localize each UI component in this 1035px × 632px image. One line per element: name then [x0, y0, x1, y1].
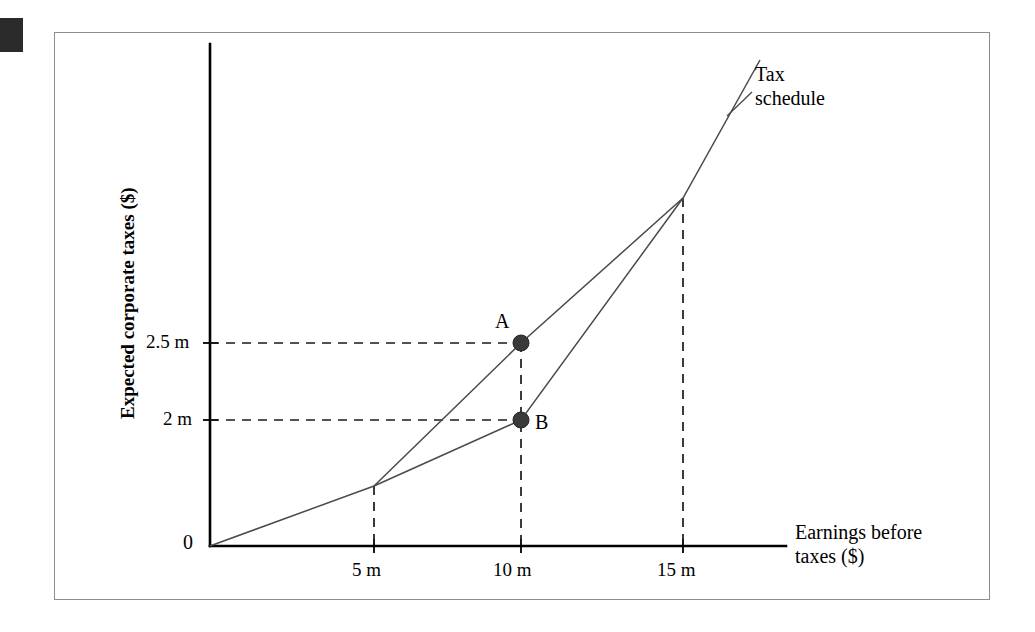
axis-origin-label: 0: [183, 531, 193, 555]
x-tick-label-15m: 15 m: [657, 559, 696, 581]
data-point-b-marker[interactable]: [513, 412, 529, 428]
x-tick-label-5m: 5 m: [352, 559, 381, 581]
data-point-a-marker[interactable]: [513, 335, 529, 351]
data-point-a-label: A: [495, 310, 509, 334]
x-axis-title-line1: Earnings before: [795, 521, 922, 543]
figure-page: 0 2.5 m 2 m 5 m 10 m 15 m Expected corpo…: [0, 0, 1035, 632]
x-axis-title: Earnings beforetaxes ($): [795, 521, 970, 568]
y-tick-label-2m: 2 m: [163, 408, 192, 430]
tax-schedule-annotation: Taxschedule: [755, 63, 905, 110]
x-axis-title-line2: taxes ($): [795, 545, 864, 567]
y-axis-title: Expected corporate taxes ($): [117, 158, 139, 448]
tax-schedule-curve: [210, 60, 760, 546]
x-tick-label-10m: 10 m: [493, 559, 532, 581]
data-point-b-label: B: [535, 411, 548, 435]
annotation-line1: Tax: [755, 63, 785, 85]
y-tick-label-2-5m: 2.5 m: [146, 331, 189, 353]
annotation-line2: schedule: [755, 87, 825, 109]
